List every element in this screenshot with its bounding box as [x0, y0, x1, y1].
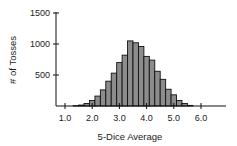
x-tick-label: 4.0 — [140, 113, 153, 123]
histogram-bar — [166, 89, 171, 106]
histogram-bar — [177, 100, 182, 106]
histogram-bar — [160, 79, 165, 106]
y-tick-label: 1000 — [30, 39, 50, 49]
histogram-bar — [144, 56, 149, 106]
histogram-bar — [138, 46, 143, 106]
x-tick-label: 6.0 — [195, 113, 208, 123]
histogram-bar — [133, 43, 138, 106]
histogram-bar — [155, 71, 160, 106]
histogram-bar — [128, 41, 133, 106]
x-tick-label: 1.0 — [59, 113, 72, 123]
histogram-bars — [73, 41, 193, 106]
histogram-bar — [106, 81, 111, 106]
y-axis-label: # of Tosses — [7, 36, 18, 84]
x-tick-label: 5.0 — [168, 113, 181, 123]
histogram-chart: 50010001500 1.02.03.04.05.06.0 5-Dice Av… — [0, 0, 237, 146]
histogram-bar — [149, 60, 154, 106]
histogram-bar — [117, 63, 122, 106]
y-axis-ticks: 50010001500 — [30, 8, 59, 80]
x-tick-label: 3.0 — [113, 113, 126, 123]
histogram-bar — [95, 96, 100, 106]
x-axis-label: 5-Dice Average — [98, 131, 163, 142]
histogram-bar — [122, 55, 127, 106]
y-tick-label: 1500 — [30, 8, 50, 18]
histogram-bar — [111, 73, 116, 106]
x-tick-label: 2.0 — [86, 113, 99, 123]
y-tick-label: 500 — [35, 70, 50, 80]
histogram-bar — [100, 90, 105, 106]
